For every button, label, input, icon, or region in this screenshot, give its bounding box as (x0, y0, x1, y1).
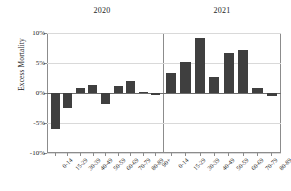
x-tick-mark (93, 153, 94, 156)
gridline-10 (47, 33, 281, 34)
x-tick-mark (130, 153, 131, 156)
gridline-neg5 (47, 123, 281, 124)
bar (151, 93, 160, 95)
x-tick-label: 70-79 (264, 157, 279, 172)
bar (252, 88, 262, 93)
bar (238, 50, 248, 93)
x-tick-label: 40-49 (221, 157, 236, 172)
bar (126, 81, 135, 93)
x-tick-mark (243, 153, 244, 156)
x-tick-label: 50-59 (235, 157, 250, 172)
x-tick-mark (155, 153, 156, 156)
bar (209, 77, 219, 93)
bar (267, 93, 277, 96)
x-tick-mark (67, 153, 68, 156)
x-tick-label: 30-39 (207, 157, 222, 172)
excess-mortality-chart: Excess Mortality 2020 2021 10%5%0%-5%-10… (0, 0, 291, 191)
bar (180, 62, 190, 93)
x-tick-mark (214, 153, 215, 156)
x-tick-label: 60-69 (250, 157, 265, 172)
bar (224, 53, 234, 93)
x-tick-mark (200, 153, 201, 156)
panel-title-2020: 2020 (48, 6, 156, 15)
y-tick-label: 5% (11, 60, 45, 67)
x-tick-label: 80-89 (279, 157, 291, 172)
y-tick-label: 10% (11, 30, 45, 37)
x-tick-mark (118, 153, 119, 156)
y-tick-label: -5% (11, 120, 45, 127)
x-tick-label: 15-29 (192, 157, 207, 172)
bar (195, 38, 205, 93)
bar (88, 85, 97, 93)
x-tick-mark (80, 153, 81, 156)
x-tick-mark (228, 153, 229, 156)
gridline-neg10 (47, 153, 281, 154)
x-tick-label: 0-14 (177, 157, 189, 169)
x-tick-mark (257, 153, 258, 156)
x-tick-mark (171, 153, 172, 156)
bar (139, 92, 148, 93)
x-tick-label: 90+ (161, 157, 172, 168)
bar (114, 86, 123, 93)
x-tick-label: 50-59 (112, 157, 127, 172)
x-tick-mark (271, 153, 272, 156)
x-tick-label: 0-14 (61, 157, 73, 169)
bar (166, 73, 176, 93)
x-tick-mark (185, 153, 186, 156)
y-tick-label: -10% (11, 150, 45, 157)
y-tick-label: 0% (11, 90, 45, 97)
x-tick-mark (55, 153, 56, 156)
bar (51, 93, 60, 129)
bar (76, 88, 85, 93)
plot-area: 10%5%0%-5%-10% 0-1415-2930-3940-4950-596… (47, 33, 281, 153)
x-tick-mark (143, 153, 144, 156)
bar (63, 93, 72, 108)
bar (101, 93, 110, 104)
panel-title-2021: 2021 (163, 6, 281, 15)
x-tick-mark (105, 153, 106, 156)
